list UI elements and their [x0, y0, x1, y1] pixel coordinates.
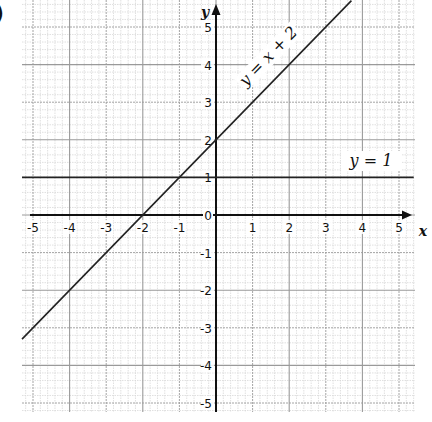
label-text: y = 1 [349, 151, 393, 170]
label-y-equals-1: y = 1 [341, 151, 401, 171]
minor-grid [22, 0, 415, 412]
x-axis-label: x [418, 223, 428, 239]
x-tick-label: 5 [395, 221, 403, 235]
x-tick-label: 2 [285, 221, 293, 235]
x-tick-label: 4 [359, 221, 367, 235]
x-tick-label: -2 [137, 221, 149, 235]
x-tick-label: -1 [173, 221, 185, 235]
y-tick-label: 5 [204, 21, 212, 35]
y-tick-label: 4 [204, 59, 212, 73]
x-tick-label: -3 [100, 221, 112, 235]
x-axis-arrow-icon [402, 211, 412, 220]
y-tick-label: -3 [200, 322, 212, 336]
y-tick-label: -2 [200, 284, 212, 298]
y-tick-label: 3 [204, 96, 212, 110]
x-tick-label: 3 [322, 221, 330, 235]
coordinate-plot: xy0-5-4-3-2-11234554321-1-2-3-4-5 y = x … [0, 0, 432, 422]
x-tick-label: 1 [249, 221, 257, 235]
origin-label: 0 [204, 209, 212, 223]
label-y-equals-x-plus-2: y = x + 2 [233, 21, 302, 92]
y-tick-label: -5 [200, 397, 212, 411]
x-tick-label: -5 [27, 221, 39, 235]
y-axis-label: y [200, 4, 210, 20]
y-tick-label: -4 [200, 359, 212, 373]
x-tick-label: -4 [64, 221, 76, 235]
label-text: y = x + 2 [234, 23, 301, 91]
y-tick-label: 1 [204, 171, 212, 185]
y-axis-arrow-icon [212, 4, 221, 15]
y-tick-label: -1 [200, 247, 212, 261]
